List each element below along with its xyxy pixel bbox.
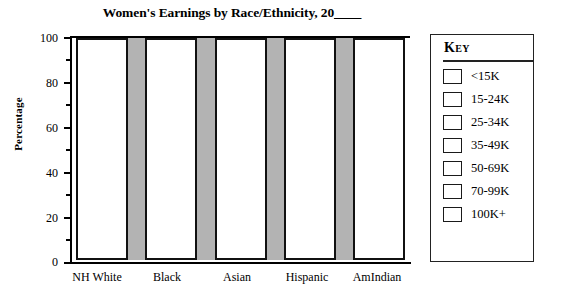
chart-panel: Women's Earnings by Race/Ethnicity, 20__… xyxy=(0,0,418,307)
x-tick-label-asian: Asian xyxy=(202,270,272,285)
y-tick-label-100: 100 xyxy=(0,32,58,44)
plot-area xyxy=(76,38,405,260)
x-tick-label-nh-white: NH White xyxy=(62,270,132,285)
legend-label: 35-49K xyxy=(471,138,509,153)
x-axis-labels: NH White Black Asian Hispanic AmIndian xyxy=(62,270,412,285)
legend-item-50-69k[interactable]: 50-69K xyxy=(443,157,535,180)
legend-label: 70-99K xyxy=(471,184,509,199)
legend-swatch-icon xyxy=(443,161,462,176)
bar-amindian[interactable] xyxy=(353,38,405,260)
y-axis-line xyxy=(70,36,72,264)
x-tick-label-amindian: AmIndian xyxy=(342,270,412,285)
legend-label: 15-24K xyxy=(471,92,509,107)
legend-label: 25-34K xyxy=(471,115,509,130)
legend-box: Key <15K 15-24K 25-34K 35-49K 50-69K 70-… xyxy=(430,34,534,262)
chart-title-text: Women's Earnings by Race/Ethnicity, 20 xyxy=(103,5,334,20)
legend-item-15-24k[interactable]: 15-24K xyxy=(443,88,535,111)
legend-items: <15K 15-24K 25-34K 35-49K 50-69K 70-99K … xyxy=(443,65,535,226)
bar-asian[interactable] xyxy=(215,38,267,260)
legend-swatch-icon xyxy=(443,92,462,107)
legend-item-under-15k[interactable]: <15K xyxy=(443,65,535,88)
x-tick-label-hispanic: Hispanic xyxy=(272,270,342,285)
bar-nh-white[interactable] xyxy=(76,38,128,260)
legend-swatch-icon xyxy=(443,115,462,130)
legend-swatch-icon xyxy=(443,69,462,84)
legend-label: <15K xyxy=(471,69,500,84)
plot-area-wrapper xyxy=(76,38,405,260)
legend-item-70-99k[interactable]: 70-99K xyxy=(443,180,535,203)
x-tick-label-black: Black xyxy=(132,270,202,285)
legend-label: 50-69K xyxy=(471,161,509,176)
y-tick-label-20: 20 xyxy=(0,212,58,224)
y-tick-label-40: 40 xyxy=(0,167,58,179)
y-tick-label-80: 80 xyxy=(0,77,58,89)
legend-title-divider xyxy=(443,60,533,62)
legend-label: 100K+ xyxy=(471,207,506,222)
legend-item-35-49k[interactable]: 35-49K xyxy=(443,134,535,157)
y-tick-label-60: 60 xyxy=(0,122,58,134)
legend-title: Key xyxy=(444,40,470,56)
legend-item-100k-plus[interactable]: 100K+ xyxy=(443,203,535,226)
chart-title: Women's Earnings by Race/Ethnicity, 20__… xyxy=(56,5,408,21)
legend-item-25-34k[interactable]: 25-34K xyxy=(443,111,535,134)
legend-swatch-icon xyxy=(443,184,462,199)
legend-swatch-icon xyxy=(443,207,462,222)
x-axis-line xyxy=(64,262,411,264)
chart-title-blank: ____ xyxy=(334,5,361,20)
legend-swatch-icon xyxy=(443,138,462,153)
bar-black[interactable] xyxy=(145,38,197,260)
y-tick-label-0: 0 xyxy=(0,256,58,268)
bar-hispanic[interactable] xyxy=(284,38,336,260)
